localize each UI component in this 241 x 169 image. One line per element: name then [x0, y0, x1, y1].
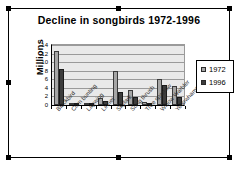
- y-axis-tick-label: 8: [45, 68, 48, 74]
- bar-group: [113, 45, 123, 105]
- y-axis-tick-labels: 14121086420: [35, 44, 49, 106]
- y-axis-tick-label: 10: [41, 59, 48, 65]
- y-axis-tick-label: 14: [41, 42, 48, 48]
- y-axis-tick-label: 2: [45, 93, 48, 99]
- selection-handle-top-center[interactable]: [116, 6, 121, 11]
- y-axis-tick-label: 6: [45, 76, 48, 82]
- selection-handle-bottom-right[interactable]: [227, 155, 232, 160]
- legend-item-1996[interactable]: 1996: [199, 76, 231, 89]
- selection-handle-top-left[interactable]: [6, 6, 11, 11]
- chart-object[interactable]: Decline in songbirds 1972-1996 Millions …: [0, 0, 241, 169]
- x-axis-category-labels: BlackbirdCorn buntingLapwingLinnetSkylar…: [35, 108, 195, 158]
- chart-legend[interactable]: 1972 1996: [196, 60, 234, 93]
- legend-label-1972: 1972: [209, 65, 226, 74]
- chart-title: Decline in songbirds 1972-1996: [8, 14, 230, 26]
- selection-handle-top-right[interactable]: [227, 6, 232, 11]
- bar-group: [54, 45, 64, 105]
- legend-swatch-1972-icon: [201, 67, 206, 72]
- legend-item-1972[interactable]: 1972: [199, 63, 231, 76]
- y-axis-tick-label: 4: [45, 85, 48, 91]
- selection-handle-bottom-left[interactable]: [6, 155, 11, 160]
- selection-handle-middle-left[interactable]: [6, 80, 11, 85]
- legend-label-1996: 1996: [209, 78, 226, 87]
- y-axis-tick-label: 12: [41, 51, 48, 57]
- legend-swatch-1996-icon: [201, 80, 206, 85]
